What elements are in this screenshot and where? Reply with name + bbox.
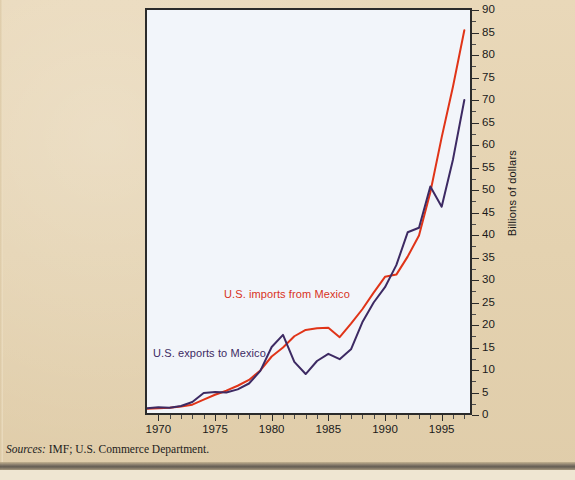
y-axis-tick-minor (472, 111, 476, 112)
y-axis-label: 0 (482, 409, 488, 421)
y-axis-title: Billions of dollars (506, 150, 518, 236)
x-axis-label: 1970 (146, 424, 172, 436)
y-axis-label: 40 (482, 229, 495, 241)
y-axis-tick-major (472, 10, 479, 11)
x-axis-label: 1995 (429, 424, 455, 436)
x-axis-tick-minor (181, 415, 182, 419)
series-annotation-imports: U.S. imports from Mexico (224, 288, 350, 300)
y-axis-tick-major (472, 370, 479, 371)
x-axis-tick-minor (362, 415, 363, 419)
y-axis-label: 25 (482, 297, 495, 309)
y-axis-tick-minor (472, 404, 476, 405)
x-axis-tick-major (385, 415, 386, 421)
y-axis-tick-minor (472, 224, 476, 225)
page-edge-shadow (0, 462, 575, 470)
y-axis-tick-minor (472, 89, 476, 90)
y-axis-tick-major (472, 145, 479, 146)
y-axis-tick-major (472, 213, 479, 214)
y-axis-tick-major (472, 303, 479, 304)
x-axis-label: 1980 (259, 424, 285, 436)
x-axis-label: 1985 (316, 424, 342, 436)
x-axis-tick-minor (374, 415, 375, 419)
x-axis-tick-minor (396, 415, 397, 419)
y-axis-tick-minor (472, 359, 476, 360)
x-axis-tick-minor (340, 415, 341, 419)
x-axis-label: 1990 (372, 424, 398, 436)
y-axis-tick-major (472, 168, 479, 169)
x-axis-tick-major (328, 415, 329, 421)
y-axis-label: 85 (482, 27, 495, 39)
x-axis-tick-minor (453, 415, 454, 419)
y-axis-tick-major (472, 100, 479, 101)
x-axis-label: 1975 (202, 424, 228, 436)
y-axis: 051015202530354045505560657075808590 (472, 8, 473, 415)
y-axis-tick-minor (472, 381, 476, 382)
y-axis-label: 55 (482, 162, 495, 174)
y-axis-label: 50 (482, 184, 495, 196)
y-axis-tick-major (472, 190, 479, 191)
y-axis-tick-minor (472, 66, 476, 67)
page-background: U.S. exports to Mexico U.S. imports from… (0, 0, 575, 480)
y-axis-label: 70 (482, 94, 495, 106)
y-axis-tick-major (472, 235, 479, 236)
x-axis-tick-major (158, 415, 159, 421)
x-axis-tick-minor (226, 415, 227, 419)
x-axis-tick-minor (430, 415, 431, 419)
y-axis-tick-major (472, 33, 479, 34)
y-axis-tick-minor (472, 246, 476, 247)
y-axis-tick-major (472, 393, 479, 394)
chart-plot-inner: U.S. exports to Mexico U.S. imports from… (147, 10, 470, 413)
y-axis-label: 35 (482, 252, 495, 264)
y-axis-label: 90 (482, 4, 495, 16)
y-axis-tick-major (472, 258, 479, 259)
y-axis-label: 60 (482, 139, 495, 151)
y-axis-label: 20 (482, 319, 495, 331)
y-axis-tick-major (472, 325, 479, 326)
x-axis-tick-minor (408, 415, 409, 419)
y-axis-tick-major (472, 123, 479, 124)
y-axis-label: 75 (482, 72, 495, 84)
source-note: Sources: IMF; U.S. Commerce Department. (6, 443, 209, 455)
y-axis-tick-minor (472, 179, 476, 180)
y-axis-tick-major (472, 280, 479, 281)
y-axis-tick-minor (472, 314, 476, 315)
page-edge-lower (0, 470, 575, 480)
x-axis-tick-minor (249, 415, 250, 419)
y-axis-tick-minor (472, 269, 476, 270)
x-axis-tick-minor (464, 415, 465, 419)
x-axis-tick-major (272, 415, 273, 421)
y-axis-tick-major (472, 78, 479, 79)
source-note-lead: Sources: (6, 443, 46, 455)
y-axis-tick-minor (472, 201, 476, 202)
x-axis-tick-minor (170, 415, 171, 419)
x-axis-tick-minor (238, 415, 239, 419)
y-axis-label: 10 (482, 364, 495, 376)
y-axis-label: 15 (482, 342, 495, 354)
series-annotation-exports: U.S. exports to Mexico (153, 347, 266, 359)
chart-plot-area: U.S. exports to Mexico U.S. imports from… (145, 8, 472, 415)
x-axis-tick-minor (260, 415, 261, 419)
x-axis-tick-minor (204, 415, 205, 419)
x-axis-tick-major (442, 415, 443, 421)
y-axis-tick-major (472, 55, 479, 56)
y-axis-tick-major (472, 348, 479, 349)
x-axis-tick-minor (283, 415, 284, 419)
y-axis-label: 5 (482, 387, 488, 399)
y-axis-label: 30 (482, 274, 495, 286)
y-axis-label: 45 (482, 207, 495, 219)
source-note-text: IMF; U.S. Commerce Department. (46, 443, 209, 455)
y-axis-tick-minor (472, 21, 476, 22)
x-axis-tick-minor (306, 415, 307, 419)
chart-line-series-1 (147, 100, 464, 408)
y-axis-tick-minor (472, 336, 476, 337)
y-axis-label: 65 (482, 117, 495, 129)
x-axis-tick-minor (192, 415, 193, 419)
y-axis-tick-minor (472, 156, 476, 157)
y-axis-tick-minor (472, 134, 476, 135)
y-axis-label: 80 (482, 49, 495, 61)
x-axis: 197019751980198519901995 (145, 415, 472, 416)
x-axis-tick-minor (419, 415, 420, 419)
y-axis-tick-major (472, 415, 479, 416)
x-axis-tick-minor (294, 415, 295, 419)
y-axis-tick-minor (472, 44, 476, 45)
